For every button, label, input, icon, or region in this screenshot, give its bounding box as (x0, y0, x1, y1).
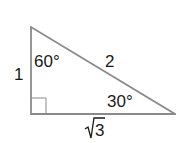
right-angle-marker (31, 98, 46, 114)
triangle-figure (0, 0, 176, 143)
long-leg-label: 3 (95, 122, 104, 139)
right-angle-30-label: 30° (107, 93, 133, 110)
hypotenuse-label: 2 (105, 53, 114, 70)
top-angle-label: 60° (34, 53, 60, 70)
short-leg-label: 1 (14, 66, 23, 83)
